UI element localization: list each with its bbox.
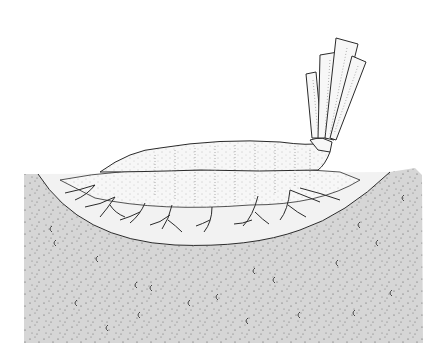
ribbon-strands (306, 38, 366, 140)
illustration (0, 0, 442, 358)
